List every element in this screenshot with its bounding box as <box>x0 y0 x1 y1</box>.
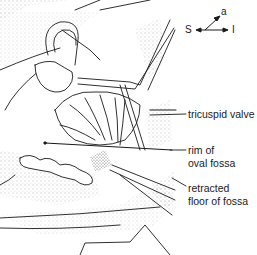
orientation-compass <box>196 16 228 32</box>
label-floor-line1: retracted <box>188 182 229 194</box>
surgical-illustration <box>0 0 257 255</box>
superior-label: S <box>185 24 192 35</box>
label-tricuspid-valve: tricuspid valve <box>188 108 255 120</box>
label-rim-line1: rim of <box>188 144 214 156</box>
label-rim-line2: oval fossa <box>188 157 235 169</box>
anterior-label: a <box>221 6 227 17</box>
inferior-label: I <box>232 24 235 35</box>
label-floor-line2: floor of fossa <box>188 195 248 207</box>
